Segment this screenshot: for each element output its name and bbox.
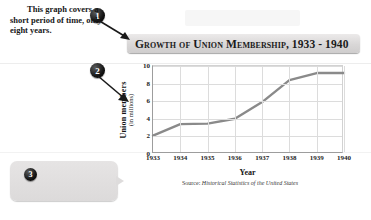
x-axis-tick-label: 1935 bbox=[201, 154, 215, 162]
x-axis-tick-label: 1938 bbox=[282, 154, 296, 162]
gridline-vertical bbox=[344, 66, 345, 152]
plot-area: 024681019331934193519361937193819391940 bbox=[152, 65, 343, 153]
callout-box-3 bbox=[10, 161, 118, 201]
source-title: Historical Statistics of the United Stat… bbox=[202, 180, 298, 186]
x-axis-tick-label: 1934 bbox=[173, 154, 187, 162]
source-note: Source: Historical Statistics of the Uni… bbox=[120, 180, 360, 186]
callout-text-3: This graph covers a short period of time… bbox=[10, 4, 102, 36]
series-polyline bbox=[153, 73, 344, 135]
data-series-line bbox=[153, 66, 344, 154]
gridline-horizontal bbox=[153, 84, 342, 85]
gridline-vertical bbox=[262, 66, 263, 152]
gridline-horizontal bbox=[153, 136, 342, 137]
gridline-vertical bbox=[317, 66, 318, 152]
gridline-vertical bbox=[235, 66, 236, 152]
figure-root: Growth of Union Membership, 1933 - 1940 … bbox=[0, 0, 371, 220]
x-axis-tick-label: 1939 bbox=[310, 154, 324, 162]
source-prefix: Source: bbox=[182, 180, 202, 186]
chart-figure: Union members (in millions) 024681019331… bbox=[120, 58, 360, 183]
callout-badge-3[interactable]: 3 bbox=[24, 168, 37, 181]
x-axis-tick-label: 1940 bbox=[337, 154, 351, 162]
background-smudge bbox=[185, 10, 300, 26]
gridline-vertical bbox=[289, 66, 290, 152]
callout-arrow-2 bbox=[96, 74, 140, 108]
x-axis-tick-label: 1936 bbox=[228, 154, 242, 162]
gridline-horizontal bbox=[153, 119, 342, 120]
y-axis-tick-label: 8 bbox=[147, 80, 151, 88]
callout-tail-3 bbox=[116, 176, 124, 186]
chart-title-bar: Growth of Union Membership, 1933 - 1940 bbox=[127, 34, 360, 53]
gridline-vertical bbox=[180, 66, 181, 152]
y-axis-tick-label: 6 bbox=[147, 97, 151, 105]
y-axis-tick-label: 4 bbox=[147, 115, 151, 123]
gridline-horizontal bbox=[153, 66, 342, 67]
x-axis-tick-label: 1937 bbox=[255, 154, 269, 162]
x-axis-tick-label: 1933 bbox=[146, 154, 160, 162]
x-axis-label: Year bbox=[152, 168, 343, 177]
chart-title: Growth of Union Membership, 1933 - 1940 bbox=[127, 38, 349, 50]
gridline-vertical bbox=[208, 66, 209, 152]
callout-arrow-1 bbox=[96, 18, 140, 44]
y-axis-tick-label: 2 bbox=[147, 132, 151, 140]
gridline-horizontal bbox=[153, 101, 342, 102]
y-axis-tick-label: 10 bbox=[143, 62, 150, 70]
